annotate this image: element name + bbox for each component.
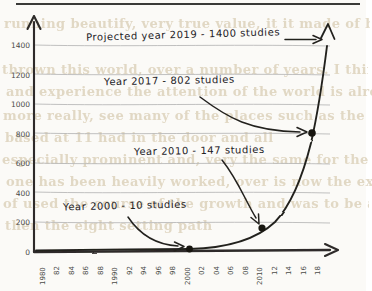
data-point-2000: [186, 246, 193, 253]
y-tick-label: 800: [16, 130, 31, 139]
annotation-arrows: [128, 36, 322, 252]
y-tick-label: 400: [16, 189, 31, 198]
x-tick-label: 16: [300, 266, 308, 275]
y-tick-labels: 0 200 400 600 800 1000 1200 1400: [11, 41, 30, 257]
x-tick-label: 98: [169, 266, 177, 275]
y-tick-label: 1200: [11, 71, 30, 80]
leader-arrow-2019: [285, 36, 322, 44]
annotation-2010: Year 2010 - 147 studies: [134, 144, 265, 157]
x-tick-label: 14: [285, 266, 293, 275]
x-tick-label: 04: [213, 266, 221, 275]
gridlines: [34, 45, 330, 223]
y-tick-label: 600: [16, 159, 31, 168]
data-point-2017: [308, 129, 316, 137]
x-tick-label: 96: [155, 266, 163, 275]
x-tick-label: 12: [271, 266, 279, 275]
x-tick-label: 1990: [111, 267, 119, 285]
x-tick-label: 84: [68, 266, 76, 275]
x-tick-label: 82: [53, 266, 61, 275]
data-point-2010: [258, 224, 265, 231]
x-tick-label: 86: [82, 266, 90, 275]
y-tick-label: 200: [16, 218, 31, 227]
x-tick-labels: 1980 82 84 86 88 1990 92 94 96 98 2000 0…: [39, 266, 323, 285]
y-tick-label: 1400: [11, 41, 30, 50]
x-tick-label: 06: [227, 266, 235, 275]
x-tick-label: 08: [242, 266, 250, 275]
x-tick-label: 2010: [256, 267, 264, 285]
x-tick-label: 2000: [184, 267, 192, 285]
x-tick-label: 94: [140, 266, 148, 275]
x-tick-label: 88: [97, 266, 105, 275]
data-curve: [36, 24, 335, 251]
page-top-edge: [16, 3, 360, 5]
x-tick-label: 1980: [39, 267, 47, 285]
x-tick-label: 92: [126, 266, 134, 275]
leader-arrow-2017: [200, 97, 307, 137]
y-tick-label: 0: [25, 248, 30, 257]
y-tick-label: 1000: [11, 100, 30, 109]
x-tick-label: 18: [314, 266, 322, 275]
x-tick-label: 02: [198, 266, 206, 275]
